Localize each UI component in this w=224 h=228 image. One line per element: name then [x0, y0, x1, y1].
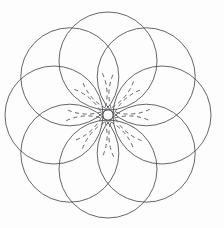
rosette-figure-container: [0, 0, 224, 228]
rosette-diagram: [0, 0, 224, 228]
figure-background: [0, 0, 224, 228]
